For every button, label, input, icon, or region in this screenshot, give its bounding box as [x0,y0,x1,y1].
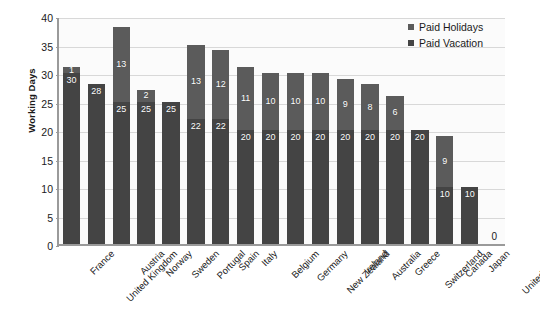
bar-segment-paid-holidays[interactable]: 13 [113,27,130,101]
y-tick-label: 5 [47,212,53,224]
x-axis-label: United States [519,248,540,296]
bar-group[interactable]: 225 [137,90,154,244]
bar-segment-value-label: 9 [343,100,348,109]
bar-segment-paid-holidays[interactable]: 2 [137,90,154,101]
y-tick-label: 40 [41,12,53,24]
bar-group[interactable]: 1222 [212,50,229,244]
bar-group[interactable]: 910 [436,136,453,244]
bar-group[interactable]: 1325 [113,27,130,244]
bar-group[interactable]: 820 [361,84,378,244]
bar-segment-value-label: 25 [116,105,126,114]
x-axis-label: France [88,248,117,277]
y-tick-mark [56,246,59,247]
bar-group[interactable]: 1020 [312,73,329,244]
chart-legend: Paid HolidaysPaid Vacation [408,22,483,48]
bar-segment-value-label: 13 [116,60,126,69]
bar-segment-paid-vacation[interactable]: 28 [88,84,105,244]
y-tick-label: 25 [41,98,53,110]
bar-segment-value-label: 20 [315,133,325,142]
bar-segment-paid-holidays[interactable]: 10 [312,73,329,130]
bar-segment-paid-vacation[interactable]: 20 [361,130,378,244]
bar-segment-paid-vacation[interactable]: 30 [63,73,80,244]
bar-segment-paid-vacation[interactable]: 10 [436,187,453,244]
bar-segment-paid-vacation[interactable]: 25 [137,102,154,245]
bar-zero-value-label: 0 [492,232,498,242]
bar-segment-paid-vacation[interactable]: 22 [212,119,229,244]
bar-segment-paid-holidays[interactable]: 10 [262,73,279,130]
legend-item-label: Paid Holidays [419,22,483,33]
bar-segment-value-label: 22 [191,122,201,131]
x-axis-label: Germany [315,248,350,283]
bar-group[interactable]: 1020 [262,73,279,244]
stacked-bar-chart: Working Days 4035302520151050 1302813252… [0,0,540,322]
bar-group[interactable]: 920 [337,79,354,244]
bar-segment-paid-vacation[interactable]: 20 [287,130,304,244]
bar-segment-paid-holidays[interactable]: 12 [212,50,229,118]
bar-group[interactable]: 25 [162,102,179,245]
bar-segment-paid-holidays[interactable]: 13 [187,45,204,119]
y-tick-label: 10 [41,183,53,195]
bar-segment-paid-vacation[interactable]: 22 [187,119,204,244]
bar-segment-value-label: 11 [241,94,250,103]
legend-item-label: Paid Vacation [419,38,483,49]
bar-segment-value-label: 20 [390,133,400,142]
legend-color-swatch [408,24,414,30]
bar-group[interactable]: 28 [88,84,105,244]
bar-group[interactable]: 1120 [237,67,254,244]
bar-segment-value-label: 22 [216,122,226,131]
bar-group[interactable]: 10 [461,187,478,244]
bar-segment-value-label: 25 [141,105,151,114]
bar-segment-value-label: 20 [241,133,251,142]
y-axis-title: Working Days [26,46,37,156]
bar-segment-value-label: 10 [315,97,325,106]
bar-segment-value-label: 20 [266,133,276,142]
bar-segment-value-label: 10 [266,97,276,106]
y-tick-label: 35 [41,41,53,53]
bar-segment-paid-holidays[interactable]: 10 [287,73,304,130]
x-axis-category-labels: FranceUnited KingdomAustriaNorwaySwedenP… [57,248,505,322]
bar-segment-paid-vacation[interactable]: 10 [461,187,478,244]
y-tick-label: 0 [47,240,53,252]
y-tick-label: 20 [41,126,53,138]
bar-segment-paid-vacation[interactable]: 20 [237,130,254,244]
bar-segment-paid-vacation[interactable]: 20 [337,130,354,244]
bar-segment-value-label: 9 [442,157,447,166]
bar-segment-paid-holidays[interactable]: 6 [386,96,403,130]
bars-layer: 1302813252252513221222112010201020102092… [59,18,505,244]
bar-group[interactable]: 1020 [287,73,304,244]
bar-segment-paid-holidays[interactable]: 9 [337,79,354,130]
legend-item[interactable]: Paid Holidays [408,22,483,33]
bar-segment-paid-vacation[interactable]: 20 [262,130,279,244]
bar-segment-paid-vacation[interactable]: 20 [411,130,428,244]
bar-segment-value-label: 12 [216,80,226,89]
bar-segment-value-label: 6 [392,108,397,117]
bar-segment-value-label: 10 [465,190,475,199]
bar-segment-value-label: 20 [340,133,350,142]
bar-segment-value-label: 25 [166,105,176,114]
bar-group[interactable]: 620 [386,96,403,244]
bar-group[interactable]: 130 [63,67,80,244]
y-tick-label: 15 [41,155,53,167]
bar-segment-paid-vacation[interactable]: 25 [162,102,179,245]
bar-segment-paid-holidays[interactable]: 8 [361,84,378,130]
legend-color-swatch [408,40,414,46]
bar-segment-paid-vacation[interactable]: 25 [113,102,130,245]
bar-segment-value-label: 20 [290,133,300,142]
legend-item[interactable]: Paid Vacation [408,38,483,49]
bar-segment-paid-holidays[interactable]: 11 [237,67,254,130]
bar-segment-value-label: 20 [415,133,425,142]
bar-segment-paid-vacation[interactable]: 20 [386,130,403,244]
bar-segment-value-label: 10 [440,190,450,199]
bar-group[interactable]: 1322 [187,45,204,244]
bar-segment-value-label: 10 [290,97,300,106]
x-axis-label: Ireland [362,248,390,276]
bar-segment-value-label: 20 [365,133,375,142]
bar-segment-value-label: 30 [66,76,76,85]
y-tick-label: 30 [41,69,53,81]
bar-segment-value-label: 13 [191,77,201,86]
plot-area: 4035302520151050 13028132522525132212221… [57,18,505,246]
bar-segment-value-label: 28 [91,87,101,96]
bar-segment-paid-holidays[interactable]: 9 [436,136,453,187]
bar-group[interactable]: 20 [411,130,428,244]
bar-segment-paid-vacation[interactable]: 20 [312,130,329,244]
